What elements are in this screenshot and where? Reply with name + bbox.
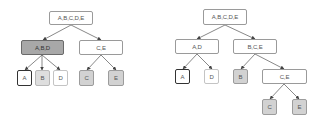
node-label: A	[23, 75, 27, 81]
edge	[225, 25, 255, 39]
edge	[270, 84, 284, 99]
edge	[197, 25, 225, 39]
left-leaf-e: E	[108, 70, 124, 86]
node-label: E	[298, 104, 302, 110]
edge	[71, 25, 101, 40]
edge	[43, 25, 71, 40]
node-label: C,E	[280, 74, 290, 80]
node-label: C	[267, 104, 271, 110]
node-label: D	[58, 75, 62, 81]
node-label: A,D	[192, 44, 202, 50]
edge	[241, 54, 255, 69]
edge	[25, 55, 42, 70]
right-leaf-a: A	[175, 69, 190, 84]
node-label: B,C,E	[247, 44, 262, 50]
node-label: D	[209, 74, 213, 80]
edge	[87, 55, 101, 70]
edge	[183, 54, 197, 69]
node-label: A,B,C,D,E	[58, 15, 84, 21]
right-leaf-e: E	[292, 99, 307, 115]
left-root-node: A,B,C,D,E	[49, 11, 93, 25]
node-label: A,B,D	[35, 45, 50, 51]
left-leaf-a: A	[17, 70, 32, 86]
node-label: E	[114, 75, 118, 81]
node-label: B	[239, 74, 243, 80]
edge	[197, 54, 212, 69]
left-leaf-d: D	[53, 70, 68, 86]
right-leaf-d: D	[204, 69, 219, 84]
left-leaf-c: C	[79, 70, 94, 86]
right-leaf-b: B	[233, 69, 248, 84]
left-leaf-b: B	[35, 70, 50, 86]
edge	[284, 84, 299, 99]
right-node-bce: B,C,E	[233, 39, 277, 54]
right-node-ce: C,E	[262, 69, 307, 84]
edge	[101, 55, 116, 70]
left-node-ce: C,E	[79, 40, 123, 55]
right-root-node: A,B,C,D,E	[203, 9, 247, 25]
node-label: C,E	[96, 45, 106, 51]
node-label: A,B,C,D,E	[212, 14, 238, 20]
right-node-ad: A,D	[175, 39, 219, 54]
edge	[255, 54, 284, 69]
node-label: B	[41, 75, 45, 81]
right-leaf-c: C	[262, 99, 277, 115]
node-label: C	[84, 75, 88, 81]
edge	[42, 55, 60, 70]
left-node-abd: A,B,D	[21, 40, 64, 55]
node-label: A	[181, 74, 185, 80]
